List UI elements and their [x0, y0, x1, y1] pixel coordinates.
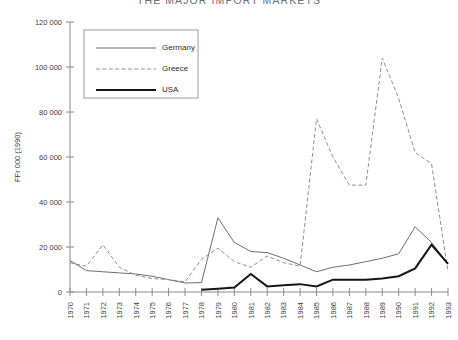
y-axis-ticks: 020 00040 00060 00080 000100 000120 000 [35, 18, 74, 297]
y-tick-label: 100 000 [35, 63, 62, 72]
x-tick-label: 1990 [394, 302, 403, 319]
x-tick-label: 1975 [148, 302, 157, 319]
x-tick-label: 1982 [263, 302, 272, 319]
y-tick-label: 80 000 [39, 108, 62, 117]
x-tick-label: 1981 [247, 302, 256, 319]
x-tick-label: 1993 [444, 302, 453, 319]
y-tick-label: 120 000 [35, 18, 62, 27]
x-tick-label: 1988 [362, 302, 371, 319]
y-tick-label: 20 000 [39, 243, 62, 252]
chart-container: THE MAJOR IMPORT MARKETS 020 00040 00060… [0, 0, 458, 340]
x-axis-ticks: 1970197119721973197419751976197719781979… [66, 288, 453, 319]
x-tick-label: 1979 [214, 302, 223, 319]
x-tick-label: 1972 [99, 302, 108, 319]
series-line-usa [201, 245, 448, 290]
legend-label-germany: Germany [162, 43, 195, 52]
x-tick-label: 1984 [296, 302, 305, 319]
legend: GermanyGreeceUSA [84, 30, 198, 98]
x-tick-label: 1992 [427, 302, 436, 319]
x-tick-label: 1980 [230, 302, 239, 319]
legend-label-greece: Greece [162, 64, 189, 73]
x-tick-label: 1970 [66, 302, 75, 319]
x-tick-label: 1974 [132, 302, 141, 319]
x-tick-label: 1991 [411, 302, 420, 319]
y-tick-label: 40 000 [39, 198, 62, 207]
x-tick-label: 1987 [345, 302, 354, 319]
x-tick-label: 1978 [197, 302, 206, 319]
y-tick-label: 60 000 [39, 153, 62, 162]
legend-label-usa: USA [162, 85, 179, 94]
x-tick-label: 1985 [312, 302, 321, 319]
x-tick-label: 1973 [115, 302, 124, 319]
series-line-germany [70, 218, 448, 283]
x-tick-label: 1989 [378, 302, 387, 319]
y-axis-title: FFr 000 (1990) [13, 131, 22, 182]
x-tick-label: 1983 [279, 302, 288, 319]
y-tick-label: 0 [58, 288, 62, 297]
x-tick-label: 1976 [164, 302, 173, 319]
line-chart-plot: 020 00040 00060 00080 000100 000120 000 … [0, 0, 458, 340]
x-tick-label: 1986 [329, 302, 338, 319]
x-tick-label: 1971 [82, 302, 91, 319]
x-tick-label: 1977 [181, 302, 190, 319]
